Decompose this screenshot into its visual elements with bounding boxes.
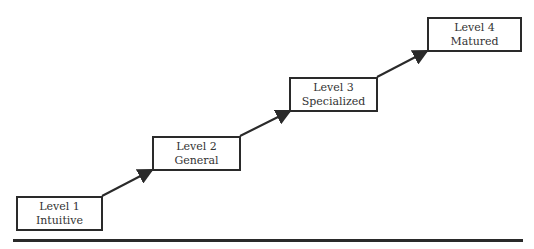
baseline-rule [13, 239, 523, 242]
level-4-box: Level 4 Matured [427, 17, 522, 52]
level-3-box: Level 3 Specialized [289, 77, 378, 112]
level-1-box: Level 1 Intuitive [16, 196, 103, 231]
level-3-name: Specialized [302, 95, 366, 109]
arrow-3-to-4 [377, 51, 427, 77]
level-4-name: Matured [450, 35, 498, 49]
level-2-label: Level 2 [176, 140, 217, 154]
level-2-name: General [174, 154, 218, 168]
level-3-label: Level 3 [313, 81, 354, 95]
level-1-label: Level 1 [39, 200, 80, 214]
level-1-name: Intuitive [36, 214, 83, 228]
level-4-label: Level 4 [454, 21, 495, 35]
level-2-box: Level 2 General [152, 136, 241, 171]
arrow-2-to-3 [240, 111, 290, 136]
arrow-1-to-2 [102, 170, 152, 196]
